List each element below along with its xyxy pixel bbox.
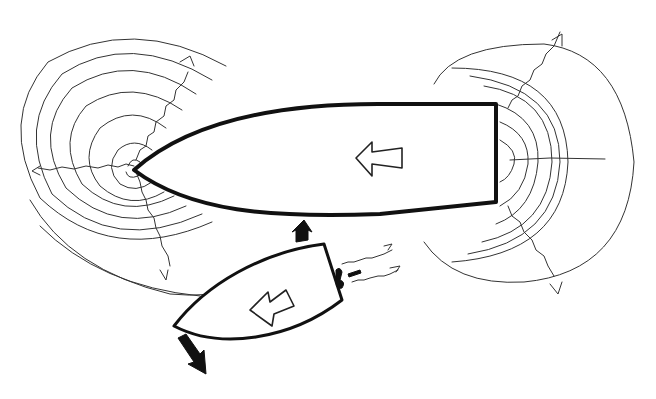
- push-arrow-down: [178, 334, 206, 374]
- push-arrow-up: [292, 220, 312, 242]
- propeller-shaft: [348, 270, 361, 277]
- large-vessel: [134, 104, 496, 215]
- propeller-icon: [336, 268, 344, 288]
- small-vessel: [174, 220, 400, 374]
